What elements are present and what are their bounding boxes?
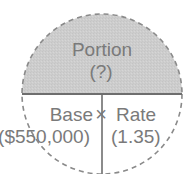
portion-value: (?)	[89, 61, 112, 82]
portion-base-rate-circle-diagram: Portion (?) Base ($550,000) × Rate (1.35…	[0, 0, 187, 174]
base-label: Base	[50, 104, 93, 125]
rate-value: (1.35)	[111, 126, 161, 147]
rate-label: Rate	[116, 104, 156, 125]
multiply-operator: ×	[95, 103, 107, 125]
base-value: ($550,000)	[0, 126, 90, 147]
portion-label: Portion	[72, 39, 132, 60]
